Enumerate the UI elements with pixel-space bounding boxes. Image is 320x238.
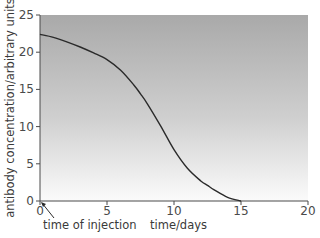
x-tick-label: 20: [300, 204, 315, 218]
plot-area: [40, 15, 308, 201]
x-axis-ticks: 05101520: [36, 201, 315, 218]
antibody-concentration-chart: 0510152025 05101520 antibody concentrati…: [0, 0, 320, 238]
y-tick-label: 15: [19, 82, 34, 96]
y-tick-label: 0: [26, 194, 34, 208]
x-tick-label: 5: [103, 204, 111, 218]
x-axis-title: time/days: [150, 218, 207, 232]
y-tick-label: 5: [26, 157, 34, 171]
y-axis-title: antibody concentration/arbitrary units: [3, 0, 17, 218]
x-tick-label: 15: [233, 204, 248, 218]
time-of-injection-label: time of injection: [43, 218, 136, 232]
y-axis-ticks: 0510152025: [19, 8, 40, 208]
y-tick-label: 20: [19, 45, 34, 59]
y-tick-label: 10: [19, 120, 34, 134]
y-tick-label: 25: [19, 8, 34, 22]
x-tick-label: 10: [166, 204, 181, 218]
